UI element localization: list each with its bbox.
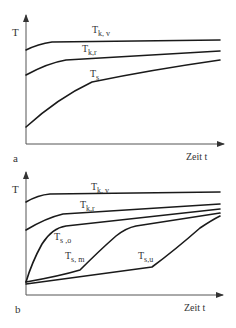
x-axis-label-b: Zeit t — [184, 302, 206, 313]
label-tkr-b: Tk,r — [80, 199, 95, 213]
curve-tkv-a — [26, 40, 220, 50]
label-ts-a: Ts — [90, 68, 99, 82]
temperature-time-diagram: T Zeit t a Tk, v Tk,r Ts T Zeit t b Tk, … — [0, 0, 236, 328]
label-tso-b: Ts ,o — [54, 231, 71, 245]
label-tsm-b: Ts, m — [65, 250, 85, 264]
curve-tkv-b — [26, 192, 220, 202]
y-axis-label-a: T — [12, 26, 19, 38]
panel-a: T Zeit t a Tk, v Tk,r Ts — [12, 15, 224, 164]
x-axis-label-a: Zeit t — [186, 151, 208, 162]
panel-label-b: b — [15, 303, 21, 315]
label-tkv-a: Tk, v — [92, 24, 110, 38]
panel-label-a: a — [13, 152, 18, 164]
curve-tkr-a — [26, 51, 220, 75]
y-axis-label-b: T — [12, 183, 19, 195]
label-tkr-a: Tk,r — [82, 43, 97, 57]
panel-b: T Zeit t b Tk, v Tk,r Ts ,o Ts, m Ts,u — [12, 172, 223, 315]
curve-ts-a — [26, 60, 220, 127]
label-tsu-b: Ts,u — [138, 250, 153, 264]
curve-tsu-b — [26, 216, 220, 284]
